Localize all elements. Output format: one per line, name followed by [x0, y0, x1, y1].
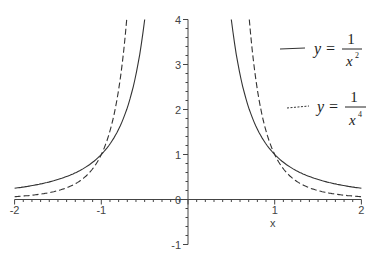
y-tick-label: -1: [171, 239, 181, 251]
svg-text:x: x: [345, 53, 353, 69]
y-tick-label: 0: [175, 194, 181, 206]
x-tick-label: 1: [272, 204, 278, 216]
legend: y = 1 x 2 y = 1 x 4: [280, 31, 366, 128]
y-tick-label: 4: [175, 14, 181, 26]
svg-text:1: 1: [350, 89, 358, 105]
y-tick-label: 1: [175, 149, 181, 161]
svg-text:2: 2: [355, 51, 359, 60]
legend-item-x4: y = 1 x 4: [287, 89, 366, 128]
tick-labels: -2-112-101234: [10, 14, 365, 251]
svg-text:4: 4: [358, 110, 362, 119]
svg-text:1: 1: [347, 31, 355, 47]
svg-text:x: x: [348, 112, 356, 128]
axes: [15, 20, 362, 245]
svg-text:y =: y =: [312, 40, 336, 58]
chart: -2-112-101234 x y = 1 x 2 y = 1 x 4: [0, 0, 374, 261]
x-axis-label: x: [270, 217, 276, 229]
x-tick-label: -2: [10, 204, 20, 216]
x-tick-label: 2: [358, 204, 364, 216]
y-tick-label: 3: [175, 59, 181, 71]
y-tick-label: 2: [175, 104, 181, 116]
legend-item-x2: y = 1 x 2: [280, 31, 362, 69]
x-tick-label: -1: [96, 204, 106, 216]
svg-text:y =: y =: [315, 98, 339, 116]
